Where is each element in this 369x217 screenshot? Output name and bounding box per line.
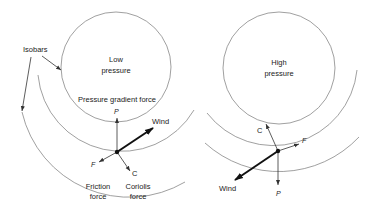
high-coriolis-arrow — [266, 124, 278, 151]
isobars-label: Isobars — [23, 45, 48, 54]
high-middle-isobar — [207, 70, 357, 146]
coriolis-force-label-2: force — [130, 192, 147, 201]
high-wind-arrow — [235, 151, 278, 180]
pressure-gradient-force-label: Pressure gradient force — [78, 95, 156, 104]
high-outer-isobar — [205, 137, 359, 172]
pressure-wind-diagram: Low pressure Pressure gradient force P W… — [0, 0, 369, 217]
low-pressure-diagram: Low pressure Pressure gradient force P W… — [22, 12, 194, 201]
low-coriolis-arrow — [117, 152, 130, 171]
low-p-label: P — [114, 108, 119, 115]
high-wind-label: Wind — [219, 184, 236, 193]
high-center-label-1: High — [271, 58, 286, 67]
isobars-callout: Isobars — [22, 45, 61, 111]
low-center-label-2: pressure — [101, 66, 130, 75]
low-wind-label: Wind — [152, 117, 169, 126]
low-friction-arrow — [99, 152, 117, 162]
low-c-label: C — [132, 169, 138, 178]
high-air-parcel-dot — [276, 149, 280, 153]
friction-force-label-1: Friction — [86, 182, 111, 191]
isobars-leader-2 — [22, 57, 31, 111]
high-c-label: C — [257, 126, 263, 135]
low-air-parcel-dot — [115, 150, 119, 154]
low-center-label-1: Low — [109, 55, 123, 64]
coriolis-force-label-1: Coriolis — [125, 182, 150, 191]
high-inner-isobar — [223, 12, 335, 124]
low-wind-arrow — [117, 128, 153, 152]
high-pressure-diagram: High pressure C F Wind P — [205, 12, 359, 197]
high-center-label-2: pressure — [264, 69, 293, 78]
friction-force-label-2: force — [90, 192, 107, 201]
high-f-label: F — [302, 137, 307, 144]
low-f-label: F — [91, 161, 96, 168]
high-p-label: P — [276, 190, 281, 197]
isobars-leader-1 — [42, 56, 61, 70]
